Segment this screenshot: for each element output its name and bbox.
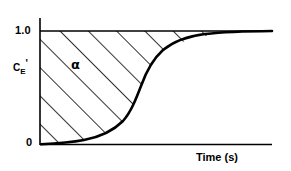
y-axis-tick-label-bottom: 0: [26, 136, 32, 148]
figure-container: 1.0 0 CE' Time (s) α: [0, 0, 291, 171]
y-axis-title-prime: ': [26, 58, 28, 69]
hatched-region-alpha: [38, 28, 276, 148]
chart-plot-area: [0, 0, 291, 171]
x-axis-title: Time (s): [196, 151, 238, 163]
hatched-region-label-alpha: α: [71, 57, 80, 72]
y-axis-tick-label-top: 1.0: [15, 24, 31, 36]
y-axis-title: CE': [13, 59, 28, 76]
